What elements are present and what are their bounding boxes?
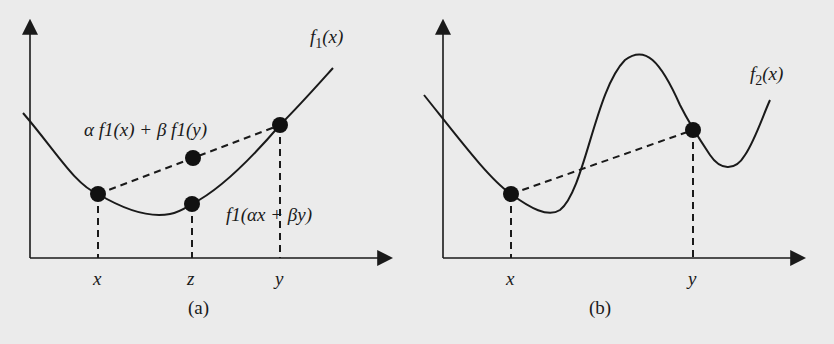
point-fy <box>685 122 701 138</box>
tick-y: y <box>686 268 697 289</box>
chord <box>511 130 693 194</box>
point-fz-chord <box>185 150 201 166</box>
caption-a: (a) <box>188 297 209 319</box>
tick-x: x <box>92 268 102 289</box>
figure-canvas: f1(x) α f1(x) + β f1(y) f1(αx + βy) x z … <box>0 0 834 344</box>
convexity-figure: f1(x) α f1(x) + β f1(y) f1(αx + βy) x z … <box>0 0 834 344</box>
chord-label: α f1(x) + β f1(y) <box>84 119 207 141</box>
point-fy <box>272 117 288 133</box>
curve-label-f2: f2(x) <box>750 63 783 88</box>
nonconvex-curve <box>424 54 770 212</box>
curve-label-f1: f1(x) <box>310 26 343 51</box>
point-fx <box>503 186 519 202</box>
tick-x: x <box>505 268 515 289</box>
convex-curve <box>23 68 333 215</box>
curve-point-label: f1(αx + βy) <box>226 204 312 226</box>
point-fx <box>90 186 106 202</box>
panel-a: f1(x) α f1(x) + β f1(y) f1(αx + βy) x z … <box>23 22 390 319</box>
tick-z: z <box>186 268 195 289</box>
point-fz-curve <box>184 196 200 212</box>
caption-b: (b) <box>589 297 611 319</box>
tick-y: y <box>273 268 284 289</box>
panel-b: f2(x) x y (b) <box>424 22 803 319</box>
